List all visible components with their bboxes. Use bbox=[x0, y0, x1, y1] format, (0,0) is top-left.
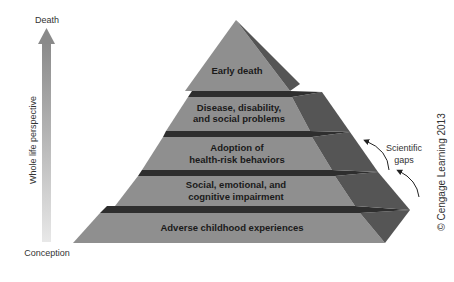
tier-label-adoption-1: Adoption of bbox=[210, 142, 264, 153]
tier-label-disease-2: and social problems bbox=[193, 113, 285, 124]
tier-label-adverse: Adverse childhood experiences bbox=[160, 222, 303, 233]
conception-label: Conception bbox=[24, 248, 70, 258]
death-label: Death bbox=[35, 15, 59, 25]
life-axis-arrow bbox=[38, 28, 55, 242]
pyramid-diagram: Death Conception Whole life perspective bbox=[0, 0, 454, 282]
tier-social-emotional bbox=[115, 170, 410, 210]
tier-label-early-death: Early death bbox=[211, 65, 262, 76]
curved-arrow-icon bbox=[399, 171, 419, 197]
axis-shaft bbox=[42, 42, 51, 242]
whole-life-perspective-label: Whole life perspective bbox=[28, 96, 38, 184]
tier-label-social-1: Social, emotional, and bbox=[186, 179, 286, 190]
tier-label-adoption-2: health-risk behaviors bbox=[189, 154, 285, 165]
tier-early-death bbox=[185, 20, 300, 91]
tier-label-social-2: cognitive impairment bbox=[188, 191, 284, 202]
scientific-gaps-label-2: gaps bbox=[394, 155, 414, 165]
tier-label-disease-1: Disease, disability, bbox=[197, 102, 281, 113]
copyright-label: © Cengage Learning 2013 bbox=[436, 113, 447, 231]
scientific-gaps-label-1: Scientific bbox=[386, 143, 423, 153]
pyramid bbox=[73, 20, 410, 243]
arrow-up-icon bbox=[38, 28, 55, 44]
